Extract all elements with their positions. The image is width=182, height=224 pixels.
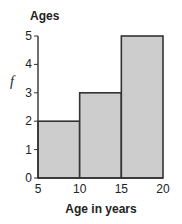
y-tick-label: 5 — [25, 29, 32, 43]
histogram-plot: 0123455101520 — [0, 0, 182, 224]
y-tick-label: 3 — [25, 86, 32, 100]
histogram-bar — [38, 121, 80, 178]
x-tick-label: 20 — [156, 182, 170, 196]
y-tick-label: 2 — [25, 114, 32, 128]
x-tick-label: 10 — [73, 182, 87, 196]
y-tick-label: 1 — [25, 143, 32, 157]
y-tick-label: 4 — [25, 57, 32, 71]
histogram-bar — [121, 36, 163, 178]
histogram-bar — [80, 93, 122, 178]
x-tick-label: 5 — [35, 182, 42, 196]
x-tick-label: 15 — [115, 182, 129, 196]
y-tick-label: 0 — [25, 171, 32, 185]
